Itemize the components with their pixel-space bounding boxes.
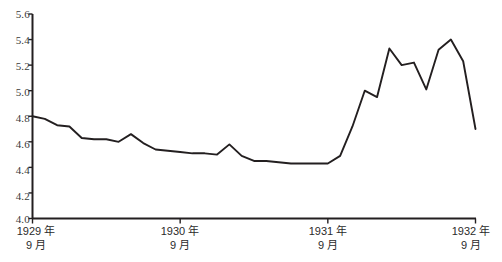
x-tick-label-line2: 9 月 xyxy=(292,238,364,252)
axes xyxy=(32,14,476,219)
x-tick-label-1932: 1932 年 9 月 xyxy=(440,224,502,252)
x-tick-label-line1: 1930 年 xyxy=(161,225,200,237)
chart-plot-area xyxy=(0,0,502,262)
x-tick-label-1930: 1930 年 9 月 xyxy=(144,224,216,252)
chart-container: 5.6 5.4 5.2 5.0 4.8 4.6 4.4 4.2 4.0 1929… xyxy=(0,0,502,262)
x-tick-label-1929: 1929 年 9 月 xyxy=(0,224,72,252)
x-tick-label-line2: 9 月 xyxy=(144,238,216,252)
x-tick-label-line1: 1931 年 xyxy=(309,225,348,237)
x-tick-label-line2: 9 月 xyxy=(440,238,502,252)
x-tick-label-line2: 9 月 xyxy=(0,238,72,252)
data-series-line xyxy=(33,40,476,164)
x-tick-label-line1: 1932 年 xyxy=(452,225,491,237)
x-tick-label-1931: 1931 年 9 月 xyxy=(292,224,364,252)
x-tick-label-line1: 1929 年 xyxy=(17,225,56,237)
